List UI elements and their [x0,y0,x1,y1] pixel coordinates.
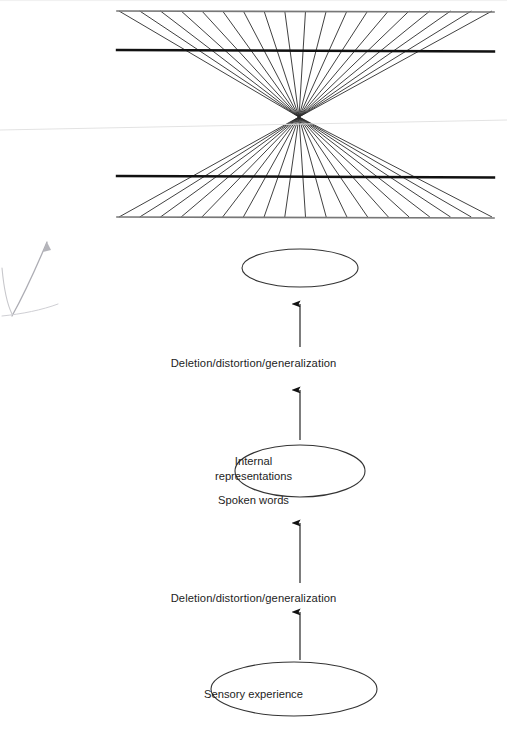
fan-radiating-lines-illusion [0,0,507,232]
node-ellipse-spoken-words [242,249,358,287]
illusion-ray [223,117,299,217]
illusion-ray [202,11,299,117]
nlp-communication-model-diagram: Spoken words Internal representations Se… [0,232,507,743]
top-light-rule [117,11,494,12]
illusion-ray [223,11,299,117]
illusion-ray [299,117,306,217]
node-label-line: Spoken words [218,494,289,506]
illusion-ray [299,117,430,217]
node-label-line: Sensory experience [204,688,303,700]
lower-bold-rule [117,176,494,178]
upper-bold-rule [117,50,494,52]
illusion-ray [299,117,471,217]
node-label-line: Internal [0,454,507,469]
illusion-ray [299,11,430,117]
illusion-ray [299,11,492,117]
illusion-ray [299,117,409,217]
edge-label-deletion-distortion-generalization-upper: Deletion/distortion/generalization [0,357,507,369]
illusion-ray [140,11,299,117]
illusion-ray [202,117,299,217]
illusion-ray [119,11,299,117]
illusion-ray [299,117,492,217]
page-canvas: Spoken words Internal representations Se… [0,0,507,743]
node-label-line: representations [0,469,507,484]
node-label-spoken-words: Spoken words [0,493,507,508]
illusion-ray [285,11,299,117]
illusion-ray [299,117,347,217]
illusion-ray [299,11,409,117]
illusion-ray [160,11,299,117]
bottom-light-rule [117,217,494,218]
illusion-ray [299,11,347,117]
illusion-ray [299,11,368,117]
node-label-internal-representations: Internal representations [0,454,507,484]
illusion-ray [299,11,471,117]
illusion-ray [299,117,368,217]
illusion-ray [299,11,306,117]
flow-diagram-vectors [0,232,507,743]
illusion-ray [140,117,299,217]
node-label-sensory-experience: Sensory experience [0,687,507,702]
illusion-rays-group [119,11,492,217]
illusion-ray [160,117,299,217]
edge-label-deletion-distortion-generalization-lower: Deletion/distortion/generalization [0,592,507,604]
illusion-ray [285,117,299,217]
illusion-ray [119,117,299,217]
